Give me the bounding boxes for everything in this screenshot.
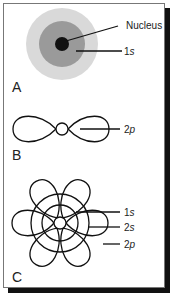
orbital-diagram: Nucleus 1s A 2p B <box>0 0 171 295</box>
nucleus-label: Nucleus <box>126 20 162 31</box>
panel-b <box>13 116 120 142</box>
1s-label-c: 1s <box>124 207 135 218</box>
2p-label-b: 2p <box>124 124 136 135</box>
1s-label-a: 1s <box>124 46 135 57</box>
panel-label-b: B <box>12 147 21 163</box>
nucleus <box>55 37 69 51</box>
panel-label-c: C <box>12 269 22 285</box>
nucleus-node <box>54 217 66 229</box>
2s-label-c: 2s <box>124 222 135 233</box>
2p-label-c: 2p <box>124 239 136 250</box>
panel-a: Nucleus 1s A <box>12 8 162 95</box>
panel-c <box>12 175 120 271</box>
p-lobe-left <box>13 116 56 142</box>
p-node <box>56 123 68 135</box>
panel-label-a: A <box>12 79 22 95</box>
